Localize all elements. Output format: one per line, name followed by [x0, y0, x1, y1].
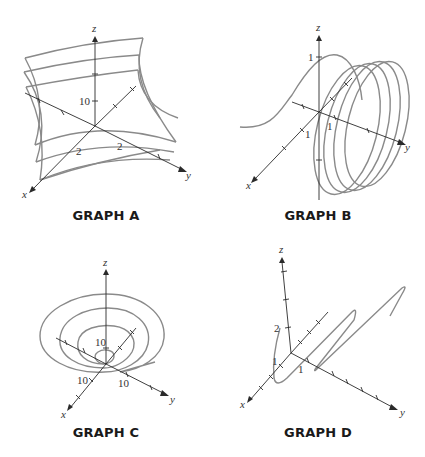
graph-b-z-axis-label: z	[315, 21, 321, 33]
graph-d-y-axis-label: y	[399, 406, 405, 418]
graph-b-z-tick-label: 1	[308, 51, 314, 63]
graph-c-x-axis-label: x	[60, 408, 66, 420]
graph-b-x-tick-label: 1	[305, 128, 311, 140]
graph-d-z-axis-label: z	[278, 243, 284, 255]
graph-b-panel: 1 1 1 z x y GRAPH B	[212, 0, 424, 228]
graph-a-y-tick-label: 2	[117, 140, 123, 152]
graph-c-z-axis-label: z	[102, 256, 108, 268]
graph-a-caption: GRAPH A	[0, 208, 212, 223]
graph-b-plot: 1 1 1 z x y	[212, 0, 425, 228]
graph-d-panel: 2 1 1 z x y GRAPH D	[212, 228, 424, 456]
graph-c-z-tick-label: 10	[95, 336, 107, 348]
graph-a-panel: 10 2 2 z x y GRAPH A	[0, 0, 212, 228]
graph-c-x-tick-label: 10	[77, 374, 89, 386]
graph-a-x-tick-label: 2	[76, 145, 82, 157]
graph-d-x-tick-label: 1	[272, 355, 278, 367]
graph-d-caption: GRAPH D	[212, 425, 424, 440]
graph-d-x-axis-label: x	[239, 398, 245, 410]
graph-a-y-axis-label: y	[185, 169, 191, 181]
graph-b-y-axis-label: y	[404, 141, 410, 153]
graph-d-plot: 2 1 1 z x y	[212, 228, 425, 457]
graph-c-panel: 10 10 10 z x y GRAPH C	[0, 228, 212, 456]
graph-a-z-tick-label: 10	[79, 95, 91, 107]
graph-b-x-axis-label: x	[245, 179, 251, 191]
graph-a-plot: 10 2 2 z x y	[0, 0, 212, 228]
graph-b-y-tick-label: 1	[327, 120, 333, 132]
graph-a-x-axis-label: x	[21, 188, 27, 200]
graph-c-caption: GRAPH C	[0, 425, 212, 440]
graph-d-z-tick-label: 2	[274, 322, 280, 334]
graph-a-z-axis-label: z	[91, 22, 97, 34]
graph-b-caption: GRAPH B	[212, 208, 424, 223]
graph-c-y-tick-label: 10	[118, 377, 130, 389]
graph-c-y-axis-label: y	[169, 393, 175, 405]
graph-d-y-tick-label: 1	[298, 363, 304, 375]
graph-c-plot: 10 10 10 z x y	[0, 228, 212, 457]
